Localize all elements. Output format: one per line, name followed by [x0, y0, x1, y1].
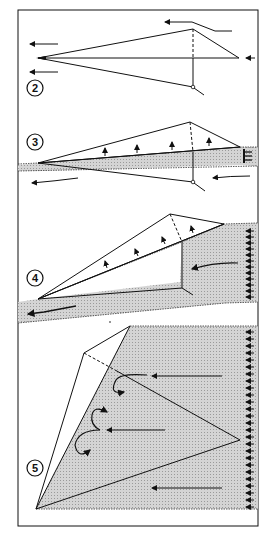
svg-text:4: 4	[32, 272, 39, 284]
panel-3: 3	[18, 122, 258, 191]
svg-text:3: 3	[32, 136, 38, 148]
diagram-canvas: 2 3	[0, 0, 275, 541]
svg-text:5: 5	[32, 462, 38, 474]
panel-4: 4	[18, 214, 258, 323]
svg-text:2: 2	[32, 82, 38, 94]
panel-5: 5	[27, 326, 258, 509]
panel-2: 2	[27, 22, 255, 96]
